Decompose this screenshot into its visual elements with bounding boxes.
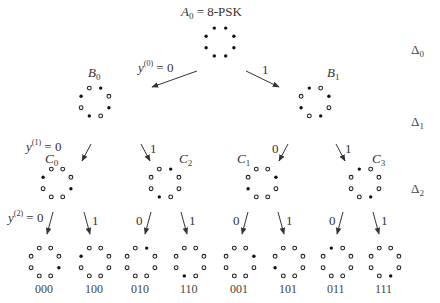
hollow-point: [194, 274, 198, 278]
filled-point: [330, 246, 333, 249]
leaf-bits-101: 101: [279, 283, 297, 295]
constellation-l111: [369, 246, 401, 278]
hollow-point: [49, 195, 53, 199]
constellation-l110: [174, 246, 206, 278]
subset-label-c2: C2: [179, 152, 192, 168]
branch-arrow-bit-0: [279, 144, 288, 161]
hollow-point: [69, 175, 73, 179]
filled-point: [319, 114, 322, 117]
filled-point: [204, 46, 207, 49]
branch-arrow-bit-1: [278, 212, 284, 234]
leaf-bits-111: 111: [375, 283, 392, 295]
hollow-point: [202, 254, 206, 258]
hollow-point: [174, 254, 178, 258]
branch-label-y0-one: 1: [262, 63, 269, 76]
branch-label-b1-zero: 0: [272, 142, 279, 155]
hollow-point: [246, 175, 250, 179]
hollow-point: [133, 246, 137, 250]
hollow-point: [202, 266, 206, 270]
hollow-point: [87, 274, 91, 278]
filled-point: [327, 95, 330, 98]
filled-point: [69, 187, 72, 190]
subset-label-b1: B1: [327, 66, 339, 82]
hollow-point: [327, 106, 331, 110]
hollow-point: [377, 175, 381, 179]
constellation-b0: [79, 86, 111, 118]
filled-point: [79, 255, 82, 258]
hollow-point: [125, 266, 129, 270]
leaf-bits-100: 100: [85, 283, 103, 295]
constellation-l001: [224, 246, 256, 278]
hollow-point: [349, 175, 353, 179]
constellation-l010: [125, 246, 157, 278]
constellation-l100: [79, 246, 111, 278]
hollow-point: [244, 246, 248, 250]
hollow-point: [99, 114, 103, 118]
hollow-point: [29, 266, 33, 270]
hollow-point: [293, 274, 297, 278]
constellation-a0: [204, 26, 235, 57]
filled-point: [224, 26, 227, 29]
filled-point: [183, 274, 186, 277]
filled-point: [107, 106, 110, 109]
hollow-point: [174, 266, 178, 270]
hollow-point: [349, 187, 353, 191]
hollow-point: [87, 86, 91, 90]
hollow-point: [145, 274, 149, 278]
hollow-point: [37, 274, 41, 278]
leaf-bits-110: 110: [180, 283, 198, 295]
filled-point: [252, 255, 255, 258]
branch-label-c3-one: 1: [381, 214, 388, 227]
hollow-point: [349, 254, 353, 258]
root-set-subscript: 0: [189, 11, 194, 21]
leaf-bits-000: 000: [35, 283, 53, 295]
hollow-point: [321, 266, 325, 270]
hollow-point: [266, 195, 270, 199]
level-label-delta1: Δ1: [411, 115, 424, 131]
filled-point: [99, 86, 102, 89]
hollow-point: [224, 254, 228, 258]
hollow-point: [57, 254, 61, 258]
hollow-point: [301, 266, 305, 270]
leaf-bits-010: 010: [131, 283, 149, 295]
constellation-l101: [273, 246, 305, 278]
hollow-point: [87, 246, 91, 250]
constellation-b1: [299, 86, 331, 118]
hollow-point: [377, 187, 381, 191]
constellation-c0: [41, 167, 73, 199]
subset-label-c1: C1: [237, 152, 250, 168]
branch-label-c0-one: 1: [92, 214, 99, 227]
filled-point: [274, 176, 277, 179]
branch-arrow-bit-0: [82, 144, 91, 161]
hollow-point: [41, 187, 45, 191]
filled-point: [145, 246, 148, 249]
hollow-point: [274, 187, 278, 191]
branch-label-c1-zero: 0: [233, 214, 240, 227]
filled-point: [246, 187, 249, 190]
subset-label-c0: C0: [45, 152, 58, 168]
subset-label-c3: C3: [372, 152, 385, 168]
root-set-equation: = 8-PSK: [197, 4, 242, 19]
hollow-point: [329, 274, 333, 278]
hollow-point: [99, 246, 103, 250]
hollow-point: [79, 106, 83, 110]
filled-point: [308, 86, 311, 89]
branch-arrow-bit-1: [373, 212, 379, 234]
hollow-point: [281, 274, 285, 278]
leaf-bits-011: 011: [327, 283, 345, 295]
hollow-point: [369, 266, 373, 270]
hollow-point: [244, 274, 248, 278]
hollow-point: [177, 175, 181, 179]
subset-label-b0: B0: [88, 66, 100, 82]
hollow-point: [397, 266, 401, 270]
hollow-point: [107, 94, 111, 98]
branch-label-y1-zero: y(1) = 0: [26, 139, 61, 153]
branch-label-c2-zero: 0: [136, 214, 143, 227]
filled-point: [299, 106, 302, 109]
constellation-c1: [246, 167, 278, 199]
hollow-point: [125, 254, 129, 258]
hollow-point: [293, 246, 297, 250]
hollow-point: [37, 246, 41, 250]
filled-point: [169, 167, 172, 170]
hollow-point: [377, 246, 381, 250]
